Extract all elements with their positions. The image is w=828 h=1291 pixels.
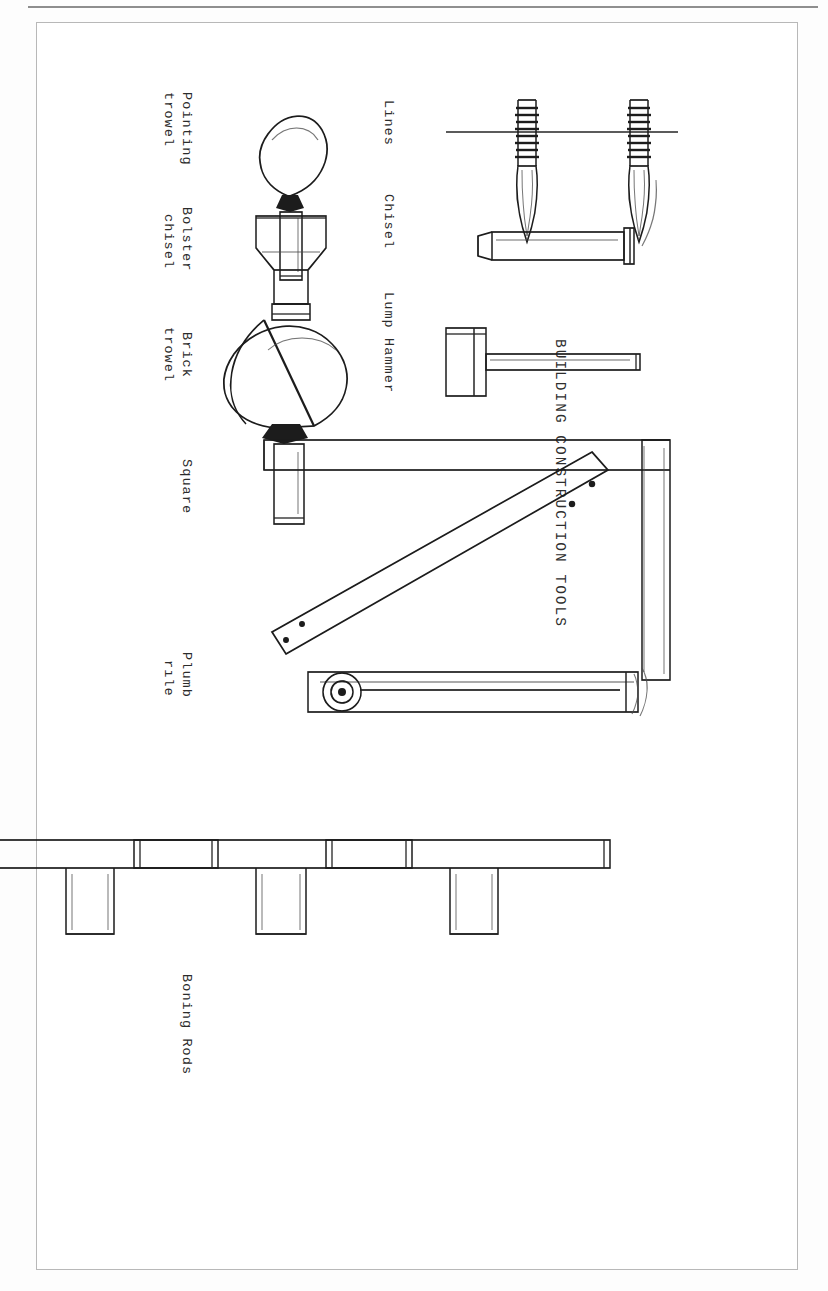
caption-bolster-chisel-line1: Bolster bbox=[178, 207, 194, 271]
caption-pointing-trowel-line2: trowel bbox=[160, 92, 176, 147]
caption-lines: Lines bbox=[381, 100, 396, 146]
caption-brick-trowel-line2: trowel bbox=[160, 327, 176, 382]
caption-bolster-chisel-line2: chisel bbox=[160, 214, 176, 269]
caption-plumb-rule-line2: rıle bbox=[160, 660, 176, 697]
scan-top-rule bbox=[28, 6, 818, 8]
rotated-page-content: BUILDING CONSTRUCTION TOOLS Lines Chisel… bbox=[36, 22, 796, 1268]
caption-chisel: Chisel bbox=[381, 194, 396, 249]
caption-brick-trowel-line1: Brick bbox=[178, 332, 194, 378]
caption-pointing-trowel-line1: Pointing bbox=[178, 92, 194, 166]
scanned-page: BUILDING CONSTRUCTION TOOLS Lines Chisel… bbox=[0, 0, 828, 1291]
figure-plumb-rule bbox=[260, 638, 660, 768]
caption-plumb-rule-line1: Plumb bbox=[178, 652, 194, 698]
caption-lump-hammer: Lump Hammer bbox=[381, 292, 396, 393]
caption-square: Square bbox=[178, 459, 194, 514]
caption-boning-rods: Boning Rods bbox=[178, 974, 194, 1075]
figure-boning-rod-3 bbox=[0, 822, 230, 942]
